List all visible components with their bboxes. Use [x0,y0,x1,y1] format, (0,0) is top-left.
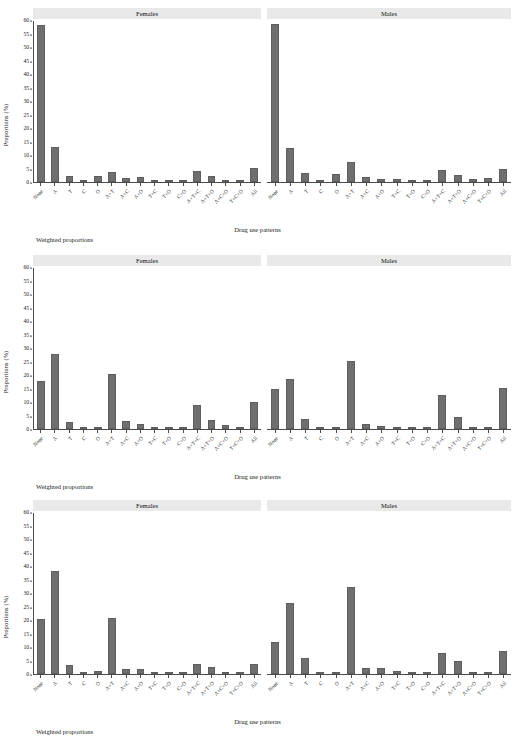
bar[interactable] [286,148,294,182]
bar[interactable] [393,671,401,674]
bar[interactable] [51,571,59,674]
bar[interactable] [222,425,230,429]
bar[interactable] [80,672,88,674]
bar[interactable] [165,427,173,429]
bar[interactable] [208,667,216,675]
bar[interactable] [151,427,159,429]
bar[interactable] [347,587,355,674]
bar[interactable] [377,426,385,429]
bar-slot [267,513,282,674]
bar[interactable] [499,388,507,429]
bar[interactable] [484,672,492,674]
bar[interactable] [423,427,431,429]
bar[interactable] [179,180,187,182]
bar[interactable] [286,603,294,674]
bar[interactable] [423,672,431,674]
bar[interactable] [208,420,216,429]
bar[interactable] [408,180,416,182]
bar[interactable] [66,176,74,182]
bar[interactable] [137,424,145,429]
bar[interactable] [271,642,279,674]
bar[interactable] [377,668,385,674]
bar[interactable] [454,661,462,674]
bar[interactable] [408,672,416,674]
bar[interactable] [271,389,279,429]
bar[interactable] [236,672,244,674]
bar[interactable] [66,422,74,429]
bar[interactable] [393,179,401,182]
bar[interactable] [438,395,446,429]
bar[interactable] [51,147,59,182]
bar[interactable] [301,419,309,429]
bar[interactable] [236,180,244,182]
bar[interactable] [332,174,340,182]
bar[interactable] [165,180,173,182]
plot-area [267,21,511,183]
bar-slot [359,21,374,182]
bar[interactable] [393,427,401,429]
bar[interactable] [137,177,145,182]
bar[interactable] [122,669,130,674]
bar[interactable] [332,427,340,429]
bar[interactable] [423,180,431,182]
bar[interactable] [80,180,88,182]
bar[interactable] [193,405,201,429]
bar[interactable] [438,170,446,182]
bar[interactable] [122,178,130,182]
bar[interactable] [347,361,355,429]
bar[interactable] [499,651,507,674]
bar[interactable] [316,427,324,429]
bar[interactable] [362,668,370,674]
bar[interactable] [122,421,130,429]
bar[interactable] [179,672,187,674]
bar[interactable] [108,172,116,182]
bar[interactable] [332,672,340,674]
bar[interactable] [316,672,324,674]
bar[interactable] [469,179,477,182]
bar[interactable] [250,664,258,674]
bar[interactable] [37,25,45,182]
bar[interactable] [165,672,173,674]
bar[interactable] [236,427,244,429]
bar[interactable] [94,176,102,182]
bar[interactable] [250,402,258,429]
bar[interactable] [108,374,116,429]
bar[interactable] [208,176,216,182]
bar[interactable] [408,427,416,429]
bar[interactable] [454,417,462,429]
bar[interactable] [362,177,370,182]
bar[interactable] [484,427,492,429]
bar[interactable] [377,179,385,182]
bar[interactable] [301,173,309,182]
bar[interactable] [94,427,102,429]
x-tick-label: T [303,680,310,687]
bar[interactable] [193,664,201,674]
bar[interactable] [250,168,258,182]
bar[interactable] [151,180,159,182]
bar[interactable] [484,178,492,182]
bar[interactable] [347,162,355,182]
bar[interactable] [469,427,477,429]
bar[interactable] [316,180,324,182]
bar[interactable] [179,427,187,429]
bar[interactable] [80,427,88,429]
bar[interactable] [66,665,74,674]
bar[interactable] [454,175,462,182]
bar[interactable] [469,672,477,674]
bar[interactable] [286,379,294,429]
bar[interactable] [51,354,59,429]
bar[interactable] [137,669,145,674]
bar[interactable] [108,618,116,674]
bar[interactable] [271,24,279,182]
bar[interactable] [193,171,201,182]
bar[interactable] [499,169,507,182]
bar[interactable] [301,658,309,674]
bar[interactable] [222,180,230,182]
bar[interactable] [37,619,45,674]
bar[interactable] [438,653,446,674]
bar[interactable] [362,424,370,429]
bar[interactable] [222,672,230,674]
bar[interactable] [151,672,159,674]
bar[interactable] [37,381,45,429]
bar[interactable] [94,671,102,674]
